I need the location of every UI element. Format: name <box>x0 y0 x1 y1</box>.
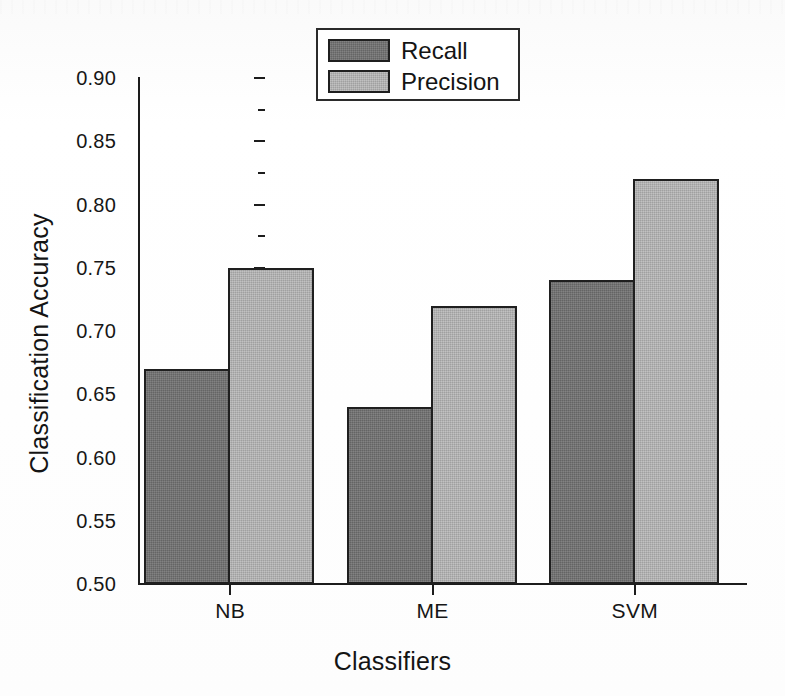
x-tick-major <box>229 584 231 595</box>
bar-me-recall <box>347 407 433 584</box>
x-axis-title: Classifiers <box>0 649 785 674</box>
x-tick-label-nb: NB <box>215 600 245 621</box>
x-tick-major <box>432 584 434 595</box>
y-tick-label: 0.55 <box>50 511 116 531</box>
legend-swatch-precision-icon <box>328 70 390 93</box>
x-tick-major <box>634 584 636 595</box>
y-tick-label: 0.65 <box>50 384 116 404</box>
y-axis-title: Classification Accuracy <box>27 109 52 579</box>
chart-legend: Recall Precision <box>316 28 520 101</box>
y-tick-label: 0.50 <box>50 574 116 594</box>
y-tick-label: 0.80 <box>50 195 116 215</box>
bar-nb-precision <box>228 268 314 584</box>
bar-chart-figure: 0.900.850.800.750.700.650.600.550.50 NBM… <box>0 0 785 696</box>
plot-area <box>138 78 745 584</box>
y-tick-label: 0.70 <box>50 321 116 341</box>
bar-me-precision <box>431 306 517 584</box>
x-tick-label-me: ME <box>416 600 448 621</box>
legend-label-precision: Precision <box>401 70 500 94</box>
y-tick-label: 0.75 <box>50 258 116 278</box>
bar-nb-recall <box>144 369 230 584</box>
y-tick-label: 0.90 <box>50 68 116 88</box>
y-tick-label: 0.85 <box>50 131 116 151</box>
x-tick-label-svm: SVM <box>612 600 658 621</box>
legend-item-recall: Recall <box>328 35 518 66</box>
legend-swatch-recall-icon <box>328 39 390 62</box>
y-tick-label: 0.60 <box>50 448 116 468</box>
bar-svm-precision <box>633 179 719 584</box>
legend-item-precision: Precision <box>328 66 518 97</box>
legend-label-recall: Recall <box>401 39 468 63</box>
bar-svm-recall <box>549 280 635 584</box>
